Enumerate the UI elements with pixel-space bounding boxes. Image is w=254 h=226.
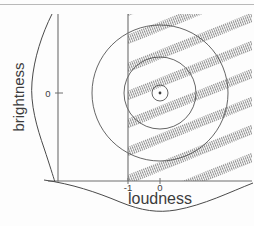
y-axis-label: brightness <box>10 62 27 131</box>
y-tick-label-0: 0 <box>45 88 50 99</box>
statistical-scatter-figure: brightness loudness 0 -1 0 <box>0 0 254 226</box>
brightness-marginal-curve <box>32 14 55 182</box>
x-tick-label-minus1: -1 <box>124 182 132 193</box>
center-point <box>159 92 162 95</box>
shaded-region <box>128 14 252 181</box>
x-tick-label-0: 0 <box>157 182 162 193</box>
figure-root: brightness loudness 0 -1 0 <box>0 0 254 226</box>
